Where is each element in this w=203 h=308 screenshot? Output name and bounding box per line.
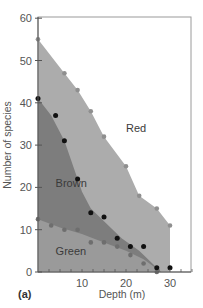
point-brown — [102, 215, 107, 220]
point-brown — [154, 265, 159, 270]
point-brown — [141, 244, 146, 249]
point-red — [168, 223, 173, 228]
x-axis-title: Depth (m) — [99, 288, 146, 300]
point-red — [102, 134, 107, 139]
x-tick-label: 10 — [76, 277, 88, 289]
point-green — [102, 240, 107, 245]
y-tick-label: 10 — [20, 224, 32, 236]
point-red — [137, 194, 142, 199]
point-red — [75, 88, 80, 93]
y-tick-label: 0 — [26, 266, 32, 278]
y-tick-label: 40 — [20, 97, 32, 109]
point-green — [128, 253, 133, 258]
y-axis-title: Number of species — [1, 101, 13, 189]
region-label-brown: Brown — [56, 177, 87, 189]
point-green — [75, 227, 80, 232]
point-brown — [115, 236, 120, 241]
species-depth-chart: 0102030405060102030 Red Brown Green Numb… — [0, 0, 203, 308]
y-tick-label: 50 — [20, 55, 32, 67]
point-red — [89, 109, 94, 114]
region-label-green: Green — [56, 245, 87, 257]
region-label-red: Red — [126, 122, 146, 134]
point-red — [155, 206, 160, 211]
point-green — [62, 227, 67, 232]
point-red — [62, 71, 67, 76]
point-brown — [62, 138, 67, 143]
point-brown — [88, 210, 93, 215]
panel-label: (a) — [18, 288, 32, 300]
point-green — [89, 240, 94, 245]
y-tick-label: 20 — [20, 181, 32, 193]
x-tick-label: 30 — [164, 277, 176, 289]
point-red — [124, 164, 129, 169]
y-tick-label: 60 — [20, 12, 32, 24]
y-tick-label: 30 — [20, 139, 32, 151]
point-green — [49, 223, 54, 228]
point-green — [115, 244, 120, 249]
point-brown — [53, 113, 58, 118]
point-brown — [128, 244, 133, 249]
point-green — [141, 261, 146, 266]
